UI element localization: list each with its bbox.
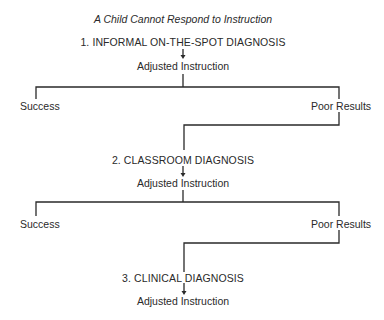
stage2-step: 2. CLASSROOM DIAGNOSIS	[112, 154, 254, 166]
diagram-title: A Child Cannot Respond to Instruction	[94, 13, 272, 25]
stage2-action: Adjusted Instruction	[137, 177, 229, 189]
stage1-action: Adjusted Instruction	[137, 60, 229, 72]
stage3-step: 3. CLINICAL DIAGNOSIS	[122, 272, 244, 284]
stage1-step: 1. INFORMAL ON-THE-SPOT DIAGNOSIS	[80, 36, 285, 48]
connector-stage1-to-stage2	[184, 112, 339, 150]
stage2-outcome-success: Success	[20, 218, 60, 230]
stage2-outcome-poor: Poor Results	[311, 218, 371, 230]
arrowhead-icon	[181, 55, 186, 59]
stage1-outcome-success: Success	[20, 100, 60, 112]
branch-stage2	[36, 202, 339, 216]
connector-stage2-to-stage3	[184, 230, 339, 272]
branch-stage1	[36, 87, 339, 99]
stage1-outcome-poor: Poor Results	[311, 100, 371, 112]
stage3-action: Adjusted Instruction	[137, 295, 229, 307]
